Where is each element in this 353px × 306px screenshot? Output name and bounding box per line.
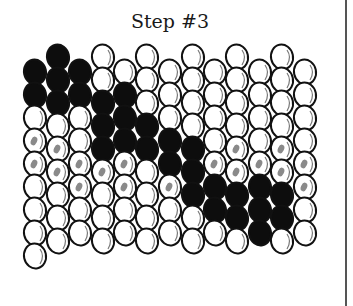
white-bead bbox=[67, 218, 94, 247]
frame-border bbox=[345, 0, 347, 306]
white-bead bbox=[157, 218, 184, 247]
white-bead bbox=[292, 218, 319, 247]
black-bead bbox=[247, 218, 274, 247]
white-bead bbox=[202, 218, 229, 247]
white-bead bbox=[224, 226, 251, 255]
white-bead bbox=[45, 226, 72, 255]
white-bead bbox=[134, 226, 161, 255]
white-bead bbox=[90, 226, 117, 255]
bead-pattern-diagram bbox=[0, 0, 353, 306]
white-bead bbox=[180, 226, 207, 255]
white-bead bbox=[269, 226, 296, 255]
white-bead bbox=[22, 241, 49, 270]
white-bead bbox=[112, 218, 139, 247]
